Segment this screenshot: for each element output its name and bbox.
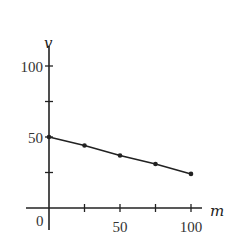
line-chart: 5010050100 m v 0 bbox=[0, 0, 247, 248]
data-point bbox=[82, 143, 87, 148]
data-point bbox=[153, 162, 158, 167]
y-tick-label: 50 bbox=[28, 130, 43, 146]
data-point bbox=[47, 135, 52, 140]
origin-label: 0 bbox=[36, 213, 44, 229]
data-series bbox=[47, 135, 194, 177]
x-axis-label: m bbox=[210, 202, 224, 220]
ticks bbox=[45, 66, 191, 212]
data-point bbox=[118, 153, 123, 158]
x-tick-label: 100 bbox=[180, 219, 203, 235]
y-axis-label: v bbox=[44, 34, 53, 52]
y-tick-label: 100 bbox=[21, 59, 44, 75]
data-point bbox=[189, 172, 194, 177]
x-tick-label: 50 bbox=[113, 219, 128, 235]
